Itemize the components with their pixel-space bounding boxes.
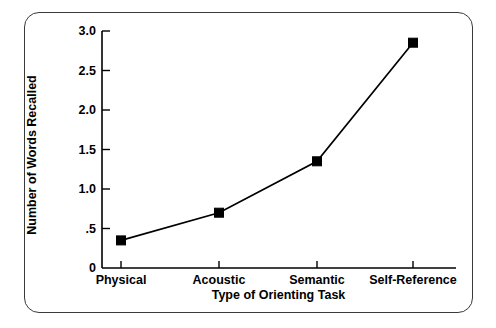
y-tick-label-2-5: 2.5 — [58, 65, 96, 78]
x-tick-label-physical: Physical — [66, 274, 176, 287]
figure-root: 3.0 2.5 2.0 1.5 1.0 .5 0 Physical Acoust… — [0, 0, 496, 328]
y-tick-label-0: 0 — [58, 262, 96, 275]
y-tick-label-3-0: 3.0 — [58, 25, 96, 38]
y-tick-label-0-5: .5 — [58, 223, 96, 236]
data-markers — [117, 38, 418, 245]
y-axis-ticks — [102, 31, 110, 229]
x-tick-label-semantic: Semantic — [262, 274, 372, 287]
data-line-words-recalled — [121, 43, 413, 241]
x-tick-label-acoustic: Acoustic — [164, 274, 274, 287]
x-axis-title: Type of Orienting Task — [102, 288, 455, 302]
data-point-physical — [117, 236, 126, 245]
data-point-self-reference — [409, 38, 418, 47]
data-point-acoustic — [215, 208, 224, 217]
y-tick-label-2-0: 2.0 — [58, 104, 96, 117]
y-tick-label-1-5: 1.5 — [58, 144, 96, 157]
y-tick-label-1-0: 1.0 — [58, 183, 96, 196]
y-axis-title: Number of Words Recalled — [25, 60, 39, 250]
data-point-semantic — [313, 157, 322, 166]
x-axis-ticks — [121, 261, 413, 268]
x-tick-label-self-reference: Self-Reference — [358, 274, 468, 287]
